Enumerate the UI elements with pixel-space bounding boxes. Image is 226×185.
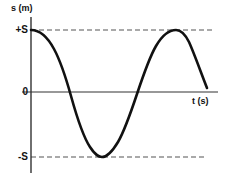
plot-area [0, 0, 226, 185]
y-tick-label-minus-s: -S [6, 151, 28, 162]
y-tick-label-plus-s: +S [6, 24, 28, 35]
y-axis-label: s (m) [11, 3, 33, 13]
x-axis-label: t (s) [192, 96, 209, 106]
y-tick-label-zero: 0 [6, 86, 28, 97]
cosine-curve [31, 30, 207, 157]
sinusoid-displacement-figure: s (m) t (s) +S 0 -S [0, 0, 226, 185]
